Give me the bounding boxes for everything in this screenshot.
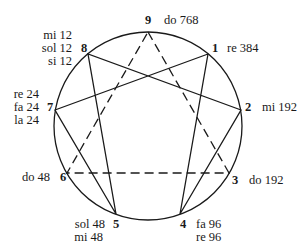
- note-label-8a: mi 12: [43, 28, 72, 42]
- point-5: 5: [113, 217, 119, 231]
- point-6: 6: [60, 170, 66, 184]
- enneagram-circle: [54, 32, 242, 220]
- note-label-9: do 768: [164, 13, 198, 27]
- note-label-8c: si 12: [48, 54, 72, 68]
- point-4: 4: [180, 217, 186, 231]
- note-label-3: do 192: [249, 173, 283, 187]
- point-8: 8: [81, 41, 87, 55]
- triangle-dashed-lines: [67, 32, 229, 173]
- note-label-1: re 384: [227, 41, 259, 55]
- note-label-8b: sol 12: [42, 41, 72, 55]
- hexad-lines: [55, 54, 241, 214]
- note-label-7c: la 24: [14, 113, 39, 127]
- point-1: 1: [212, 41, 218, 55]
- note-label-5b: mi 48: [74, 230, 103, 244]
- note-label-4b: re 96: [196, 230, 221, 244]
- note-label-7a: re 24: [14, 87, 39, 101]
- point-9: 9: [145, 13, 151, 27]
- point-2: 2: [245, 100, 251, 114]
- note-label-7b: fa 24: [14, 100, 39, 114]
- point-3: 3: [232, 173, 238, 187]
- note-label-4a: fa 96: [196, 217, 221, 231]
- point-7: 7: [47, 100, 53, 114]
- note-label-6: do 48: [22, 170, 50, 184]
- note-label-2: mi 192: [262, 100, 297, 114]
- note-label-5a: sol 48: [75, 217, 105, 231]
